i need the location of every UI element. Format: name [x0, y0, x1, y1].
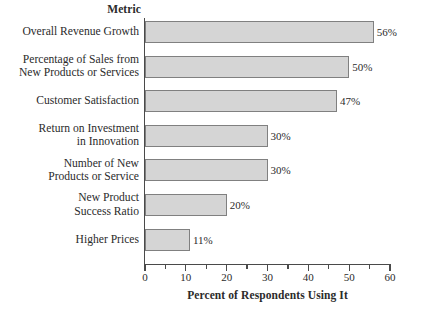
category-label-line: New Products or Services	[0, 66, 139, 79]
bar-value-label: 47%	[340, 90, 360, 112]
bar	[145, 229, 190, 251]
category-label-line: Customer Satisfaction	[0, 94, 139, 107]
x-axis-tick-35	[287, 265, 288, 269]
bar	[145, 194, 227, 216]
category-label-line: Return on Investment	[0, 122, 139, 135]
category-label: Number of NewProducts or Service	[0, 157, 139, 183]
category-label: Customer Satisfaction	[0, 94, 139, 107]
x-axis-tick-label: 60	[375, 271, 405, 284]
x-axis-title: Percent of Respondents Using It	[144, 289, 391, 301]
category-label: Overall Revenue Growth	[0, 25, 139, 38]
category-label: Percentage of Sales fromNew Products or …	[0, 53, 139, 79]
x-axis-tick-label: 20	[212, 271, 242, 284]
x-axis-tick-45	[328, 265, 329, 269]
category-label-line: Percentage of Sales from	[0, 53, 139, 66]
bar	[145, 21, 374, 43]
category-label-line: in Innovation	[0, 135, 139, 148]
category-label: Return on Investmentin Innovation	[0, 122, 139, 148]
category-label-line: Overall Revenue Growth	[0, 25, 139, 38]
category-label-line: Higher Prices	[0, 233, 139, 246]
x-axis-tick-5	[165, 265, 166, 269]
category-label-line: Products or Service	[0, 170, 139, 183]
category-label-line: Number of New	[0, 157, 139, 170]
bar	[145, 125, 268, 147]
bar-value-label: 56%	[377, 21, 397, 43]
category-label-line: New Product	[0, 191, 139, 204]
bar-value-label: 50%	[352, 56, 372, 78]
x-axis-tick-25	[246, 265, 247, 269]
category-label: New ProductSuccess Ratio	[0, 191, 139, 217]
bar	[145, 56, 349, 78]
category-label: Higher Prices	[0, 233, 139, 246]
bar	[145, 159, 268, 181]
bar-value-label: 30%	[271, 125, 291, 147]
bar-value-label: 20%	[230, 194, 250, 216]
bar-value-label: 30%	[271, 159, 291, 181]
x-axis-tick-label: 30	[253, 271, 283, 284]
x-axis-tick-55	[369, 265, 370, 269]
x-axis-tick-label: 50	[334, 271, 364, 284]
x-axis-tick-label: 10	[171, 271, 201, 284]
x-axis-tick-label: 40	[293, 271, 323, 284]
bar	[145, 90, 337, 112]
category-label-line: Success Ratio	[0, 205, 139, 218]
bar-value-label: 11%	[193, 229, 213, 251]
bar-chart: Metric 0102030405060 Percent of Responde…	[0, 0, 429, 315]
y-axis-title: Metric	[0, 3, 141, 16]
x-axis-tick-15	[206, 265, 207, 269]
x-axis-tick-label: 0	[130, 271, 160, 284]
